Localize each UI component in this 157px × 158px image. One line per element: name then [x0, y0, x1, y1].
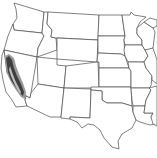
state-washington — [13, 3, 44, 33]
state-wyoming — [57, 38, 98, 62]
state-nebraska — [97, 53, 129, 68]
state-montana — [47, 12, 99, 40]
state-north-dakota — [98, 15, 125, 36]
range-map — [0, 0, 157, 158]
state-colorado — [64, 62, 99, 88]
state-utah — [37, 57, 66, 88]
state-kansas — [99, 68, 131, 87]
us-map — [0, 0, 157, 158]
state-new-mexico — [61, 88, 91, 119]
